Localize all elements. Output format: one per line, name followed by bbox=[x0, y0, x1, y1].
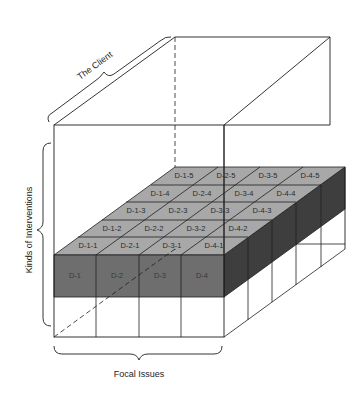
top-cell: D-3-2 bbox=[187, 224, 206, 233]
top-cell: D-2-2 bbox=[145, 224, 164, 233]
top-cell: D-4-4 bbox=[277, 189, 296, 198]
three-dimensional-intervention-cube-diagram: The Client Kinds of Interventions Focal … bbox=[0, 0, 350, 397]
top-cell: D-2-1 bbox=[121, 241, 140, 250]
top-cell: D-3-5 bbox=[259, 171, 278, 180]
top-cell: D-1-3 bbox=[127, 206, 146, 215]
focal-issues-brace bbox=[54, 346, 222, 360]
top-cell: D-3-4 bbox=[235, 189, 254, 198]
top-cell: D-2-5 bbox=[217, 171, 236, 180]
top-cell: D-4-1 bbox=[205, 241, 224, 250]
client-brace bbox=[48, 37, 171, 122]
focal-issues-axis-label: Focal Issues bbox=[114, 369, 165, 379]
front-cell: D-3 bbox=[154, 271, 166, 280]
interventions-axis-label: Kinds of Interventions bbox=[24, 186, 34, 273]
top-cell: D-4-2 bbox=[229, 224, 248, 233]
front-cell: D-4 bbox=[196, 271, 208, 280]
top-cell: D-1-2 bbox=[103, 224, 122, 233]
top-cell: D-2-4 bbox=[193, 189, 212, 198]
top-cell: D-3-1 bbox=[163, 241, 182, 250]
client-axis-label: The Client bbox=[75, 49, 114, 81]
top-cell: D-1-1 bbox=[79, 241, 98, 250]
top-cell: D-3-3 bbox=[211, 206, 230, 215]
cube-drawing: The Client Kinds of Interventions Focal … bbox=[0, 0, 350, 397]
interventions-brace bbox=[37, 143, 51, 326]
top-cell: D-1-4 bbox=[151, 189, 170, 198]
top-cell: D-2-3 bbox=[169, 206, 188, 215]
front-cell: D-2 bbox=[111, 271, 123, 280]
top-cell: D-1-5 bbox=[175, 171, 194, 180]
top-cell: D-4-3 bbox=[253, 206, 272, 215]
top-cell: D-4-5 bbox=[301, 171, 320, 180]
front-cell: D-1 bbox=[69, 271, 81, 280]
